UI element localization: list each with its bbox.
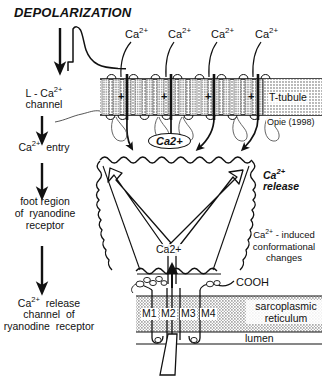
label-ca-release: Ca2+release [263, 168, 299, 193]
t-tubule-label: T-tubule [268, 92, 308, 104]
segment-label-m1: M1 [141, 308, 158, 320]
label-l-ca-channel: L - Ca2+channel [6, 86, 82, 111]
label-lumen: lumen [245, 333, 274, 345]
label-foot-region: foot regionof ryanodinereceptor [0, 196, 90, 231]
foot-ca-label: Ca2+ [155, 244, 182, 256]
ion-leader-lines [121, 42, 261, 77]
ion-superscript: 2+ [225, 26, 234, 35]
membrane-charge-3: + [205, 90, 211, 102]
superscript: 2+ [276, 167, 285, 176]
cooh-bead-icon [206, 281, 220, 287]
credit-label: Opie (1998) [266, 117, 316, 127]
ion-label-3: Ca2+ [211, 27, 234, 40]
label-conformational-changes: Ca2+ - inducedconformationalchanges [242, 228, 326, 264]
ion-label-4: Ca2+ [255, 27, 278, 40]
superscript: 2+ [54, 85, 63, 94]
label-sarcoplasmic-reticulum: sarcoplasmicreticulum [246, 300, 326, 324]
segment-label-m4: M4 [200, 308, 217, 320]
segment-label-m3: M3 [180, 308, 197, 320]
bead-cluster-icon [132, 276, 167, 293]
label-ca-release-channel: Ca2+ releasechannel ofryanodine receptor [0, 296, 98, 333]
ion-label-2: Ca2+ [168, 27, 191, 40]
ion-superscript: 2+ [269, 26, 278, 35]
membrane-charge-4: + [248, 90, 254, 102]
superscript: 2+ [31, 295, 40, 304]
figure-title: DEPOLARIZATION [14, 6, 131, 21]
membrane-top-loops [107, 75, 270, 80]
label-cooh: COOH [236, 276, 269, 288]
superscript: 2+ [32, 139, 41, 148]
ion-superscript: 2+ [139, 26, 148, 35]
action-potential-trace [68, 27, 126, 71]
sr-line2: reticulum [265, 312, 308, 324]
segment-label-m2: M2 [160, 308, 177, 320]
figure-canvas: DEPOLARIZATION Ca2+ Ca2+ Ca2+ Ca2+ + + +… [0, 0, 326, 379]
ion-superscript: 2+ [182, 26, 191, 35]
cytosolic-ca-oval: Ca2+ [148, 133, 191, 149]
sr-line1: sarcoplasmic [255, 300, 316, 312]
l-channel-connector [55, 111, 100, 122]
cytosolic-strand-shapes [112, 117, 280, 141]
superscript: 2+ [265, 228, 273, 235]
membrane-charge-2: + [161, 90, 167, 102]
membrane-charge-1: + [118, 90, 124, 102]
label-ca-entry: Ca2+ entry [2, 140, 86, 153]
ion-label-1: Ca2+ [125, 27, 148, 40]
